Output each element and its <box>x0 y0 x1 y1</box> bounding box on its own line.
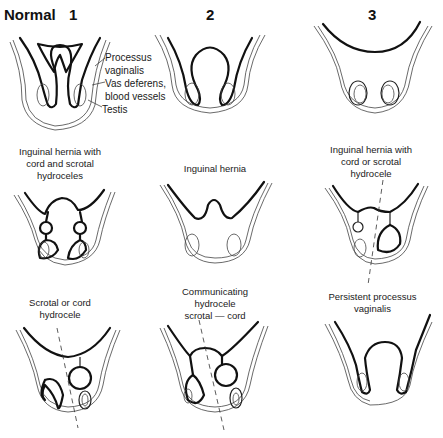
panel-inguinal-hernia <box>160 182 272 263</box>
panel-2 <box>155 35 265 113</box>
panel-persistent-processus-vaginalis <box>325 315 432 405</box>
panel-hernia-cord-or-scrotal-hydrocele <box>325 180 428 285</box>
panel-hernia-cord-scrotal-hydroceles <box>14 190 115 265</box>
panel-communicating-hydrocele <box>160 320 268 430</box>
panel-scrotal-or-cord-hydrocele <box>16 328 120 428</box>
panel-3 <box>314 22 432 113</box>
diagram-drawings <box>0 0 443 438</box>
panel-normal-1 <box>10 38 110 130</box>
